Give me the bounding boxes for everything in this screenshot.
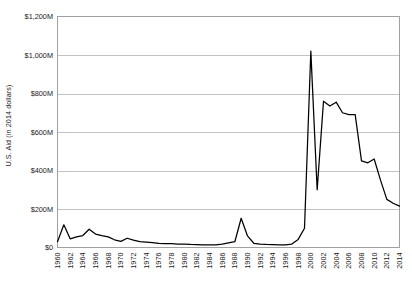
x-axis-tick-label: 1998	[294, 253, 303, 269]
x-axis-tick-label: 1972	[129, 253, 138, 269]
x-axis-tick-label: 2012	[382, 253, 391, 269]
x-axis-tick-label: 1974	[142, 253, 151, 269]
y-axis-tick-labels: $0$200M$400M$600M$800M$1,000M$1,200M	[25, 12, 53, 252]
data-series-line-us-aid	[58, 51, 400, 245]
plot-area-frame	[58, 17, 400, 248]
x-axis-tick-label: 2006	[344, 253, 353, 269]
x-axis-tick-label: 1976	[154, 253, 163, 269]
y-axis-tick-label: $200M	[31, 205, 53, 214]
x-axis-tick-label: 2002	[319, 253, 328, 269]
y-axis-tick-label: $400M	[31, 166, 53, 175]
y-axis-tick-label: $1,200M	[25, 12, 53, 21]
x-axis-tick-label: 2008	[357, 253, 366, 269]
chart-container: U.S. Aid (in 2014 dollars) $0$200M$400M$…	[0, 0, 412, 285]
gridlines	[58, 56, 400, 210]
x-axis-tick-label: 1996	[281, 253, 290, 269]
x-axis-tick-label: 2014	[395, 253, 404, 269]
x-axis-tick-label: 1988	[230, 253, 239, 269]
x-axis-tick-label: 1992	[256, 253, 265, 269]
x-axis-tick-label: 1970	[116, 253, 125, 269]
x-axis-tick-label: 2000	[306, 253, 315, 269]
x-axis-tick-label: 1968	[104, 253, 113, 269]
x-axis-tick-label: 1966	[91, 253, 100, 269]
x-axis-tick-label: 1964	[78, 253, 87, 269]
x-axis-tick-label: 1982	[192, 253, 201, 269]
y-axis-tick-label: $0	[45, 243, 53, 252]
x-axis-tick-label: 2004	[332, 253, 341, 269]
y-axis-tick-label: $800M	[31, 89, 53, 98]
x-axis-tick-label: 1990	[243, 253, 252, 269]
x-axis-tick-label: 1994	[268, 253, 277, 269]
x-axis-tick-label: 1986	[218, 253, 227, 269]
x-axis-tick-label: 1962	[66, 253, 75, 269]
x-axis-tick-labels: 1960196219641966196819701972197419761978…	[53, 253, 404, 269]
y-axis-tick-label: $1,000M	[25, 51, 53, 60]
x-axis-tick-label: 1984	[205, 253, 214, 269]
y-axis-tick-label: $600M	[31, 128, 53, 137]
line-chart-svg: $0$200M$400M$600M$800M$1,000M$1,200M 196…	[0, 0, 412, 285]
x-axis-tick-label: 2010	[370, 253, 379, 269]
x-axis-tick-label: 1980	[180, 253, 189, 269]
x-axis-tick-label: 1978	[167, 253, 176, 269]
x-axis-tick-label: 1960	[53, 253, 62, 269]
